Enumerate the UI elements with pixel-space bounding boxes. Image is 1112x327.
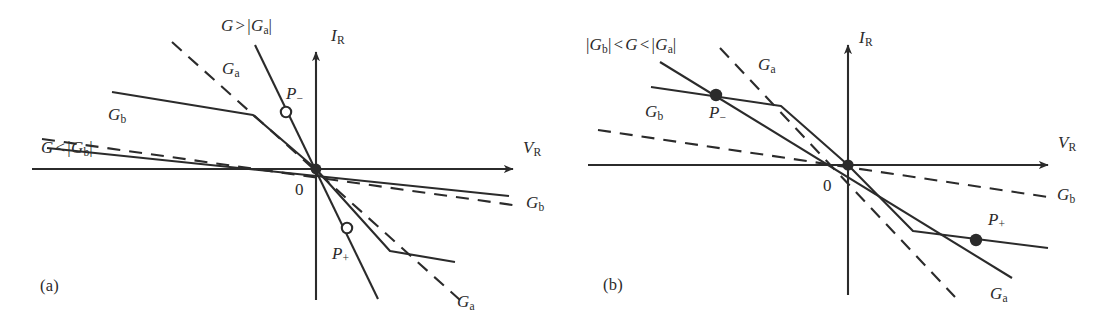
panel-b-origin-label: 0 — [823, 177, 832, 194]
panel-a-axis-x-label: VR — [523, 139, 541, 159]
panel-a-label-gb-left: Gb — [108, 106, 126, 126]
panel-b-label-gb-left: Gb — [645, 103, 663, 123]
panel-b-point-minus-label: P− — [709, 104, 726, 124]
panel-a-point-plus-label: P+ — [332, 245, 349, 265]
panel-b-curve-ga-dashed — [720, 48, 955, 297]
panel-b-origin-dot — [842, 159, 853, 170]
panel-b-axis-x-label: VR — [1058, 134, 1076, 154]
panel-a-origin-label: 0 — [295, 181, 304, 198]
panel-a-loadline-shallow — [47, 148, 509, 196]
figure-canvas — [0, 0, 1112, 327]
panel-b-axis-y-label: IR — [859, 29, 873, 49]
panel-a-point-plus-marker — [342, 223, 352, 233]
panel-b-tag: (b) — [603, 277, 623, 294]
panel-a-label-ga-bottom: Ga — [457, 293, 475, 313]
panel-b-label-ga-top: Ga — [758, 56, 776, 76]
panel-a-label-gb-right: Gb — [526, 194, 544, 214]
panel-a-origin-dot — [311, 164, 322, 175]
panel-a-point-minus-marker — [281, 107, 291, 117]
panel-b-label-gb-right: Gb — [1057, 186, 1075, 206]
panel-a-tag: (a) — [40, 278, 59, 295]
figure-root: G>|Ga| IR VR Ga Gb G<|Gb| P− P+ 0 Gb Ga … — [0, 0, 1112, 327]
panel-a-label-ga-top: Ga — [222, 60, 240, 80]
panel-a-graphics — [32, 42, 520, 300]
panel-a-axis-y-label: IR — [331, 27, 345, 47]
panel-a-condition-left: G<|Gb| — [41, 139, 93, 159]
panel-a-point-minus-label: P− — [286, 85, 303, 105]
panel-b-label-ga-bottom: Ga — [990, 285, 1008, 305]
panel-b-point-plus-marker — [970, 234, 982, 246]
panel-b-condition-top: |Gb|<G<|Ga| — [586, 36, 676, 56]
panel-a-condition-top: G>|Ga| — [221, 17, 272, 37]
panel-b-point-minus-marker — [710, 89, 722, 101]
panel-b-point-plus-label: P+ — [988, 211, 1005, 231]
panel-b-graphics — [588, 45, 1055, 297]
